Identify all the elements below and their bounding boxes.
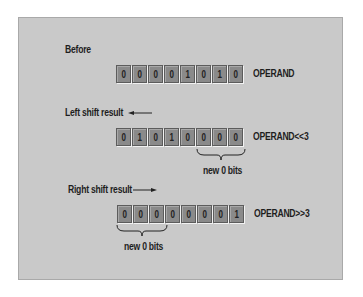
bit-cell: 0 <box>165 205 180 223</box>
before-heading: Before <box>65 43 91 55</box>
bit-cell: 1 <box>180 65 195 83</box>
brace-new-bits-left-shift <box>196 148 246 162</box>
bit-cell: 0 <box>133 205 148 223</box>
bit-cell: 1 <box>212 65 227 83</box>
left-shift-heading: Left shift result <box>65 106 123 118</box>
diagram-frame <box>18 17 343 280</box>
bit-cell: 0 <box>197 205 212 223</box>
bit-cell: 1 <box>132 128 147 146</box>
before-operand-name: OPERAND <box>253 67 294 79</box>
bit-cell: 0 <box>117 205 132 223</box>
bit-cell: 0 <box>196 128 211 146</box>
bit-cell: 0 <box>228 128 243 146</box>
bit-cell: 0 <box>116 65 131 83</box>
arrow-right-icon <box>132 186 158 194</box>
bit-cell: 1 <box>164 128 179 146</box>
bit-cell: 0 <box>164 65 179 83</box>
bit-cell: 0 <box>213 205 228 223</box>
left-shift-operand-name: OPERAND<<3 <box>253 130 308 142</box>
right-shift-heading: Right shift result <box>68 183 132 195</box>
bit-cell: 0 <box>148 128 163 146</box>
bit-cell: 0 <box>116 128 131 146</box>
bit-cell: 0 <box>228 65 243 83</box>
bit-cell: 0 <box>181 205 196 223</box>
left-shift-new-bits-label: new 0 bits <box>203 164 242 176</box>
arrow-left-icon <box>127 109 153 117</box>
before-bit-row: 0 0 0 0 1 0 1 0 <box>116 65 244 83</box>
bit-cell: 0 <box>132 65 147 83</box>
bit-cell: 1 <box>229 205 244 223</box>
right-shift-new-bits-label: new 0 bits <box>124 240 163 252</box>
bit-cell: 0 <box>212 128 227 146</box>
right-shift-operand-name: OPERAND>>3 <box>254 207 309 219</box>
right-shift-bit-row: 0 0 0 0 0 0 0 1 <box>117 205 245 223</box>
brace-new-bits-right-shift <box>116 224 168 238</box>
bit-cell: 0 <box>196 65 211 83</box>
bit-cell: 0 <box>148 65 163 83</box>
bit-cell: 0 <box>180 128 195 146</box>
bit-cell: 0 <box>149 205 164 223</box>
left-shift-bit-row: 0 1 0 1 0 0 0 0 <box>116 128 244 146</box>
